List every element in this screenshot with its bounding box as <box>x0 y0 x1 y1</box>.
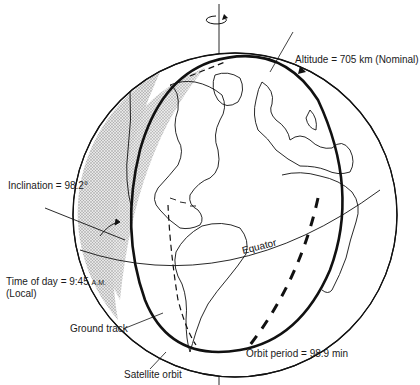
altitude-label: Altitude = 705 km (Nominal) <box>295 54 419 66</box>
time-suffix: A.M. <box>92 279 106 286</box>
inclination-label: Inclination = 98.2° <box>8 180 88 192</box>
local-label: (Local) <box>6 288 37 300</box>
satellite-orbit-label: Satellite orbit <box>124 369 182 381</box>
orbit-period-label: Orbit period = 98.9 min <box>246 348 348 360</box>
time-of-day-value: Time of day = 9:45 <box>6 276 89 287</box>
ground-track-label: Ground track <box>70 323 128 335</box>
